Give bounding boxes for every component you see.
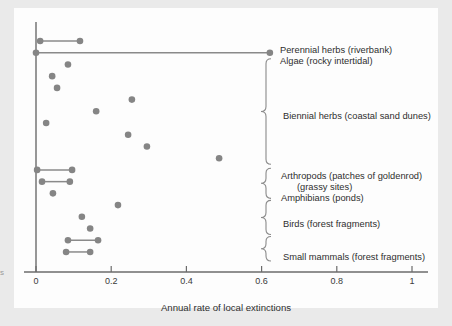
group-label-arthropods-goldenrod: Arthropods (patches of goldenrod) bbox=[281, 171, 422, 182]
data-point bbox=[54, 85, 61, 92]
group-label-birds: Birds (forest fragments) bbox=[283, 219, 380, 230]
x-axis-title: Annual rate of local extinctions bbox=[161, 302, 291, 313]
x-axis-tick-label-4: 0.8 bbox=[331, 276, 344, 286]
data-point bbox=[93, 108, 100, 115]
data-point bbox=[37, 38, 44, 45]
data-point bbox=[63, 249, 70, 256]
data-point bbox=[65, 61, 72, 68]
data-series bbox=[33, 38, 273, 256]
brace-birds bbox=[261, 200, 271, 234]
brace-biennial-herbs bbox=[261, 59, 271, 164]
x-axis-tick-label-1: 0.2 bbox=[105, 276, 118, 286]
data-point bbox=[39, 178, 46, 185]
x-axis-tick-label-5: 1 bbox=[409, 276, 414, 286]
x-axis-tick-label-2: 0.4 bbox=[180, 276, 193, 286]
data-point bbox=[95, 237, 102, 244]
data-point bbox=[77, 38, 84, 45]
group-label-biennial-herbs: Biennial herbs (coastal sand dunes) bbox=[283, 111, 431, 122]
figure-container: 00.20.40.60.81 Perennial herbs (riverban… bbox=[0, 0, 452, 326]
data-point bbox=[216, 155, 223, 162]
group-label-small-mammals: Small mammals (forest fragments) bbox=[283, 252, 425, 263]
group-label-algae: Algae (rocky intertidal) bbox=[280, 56, 373, 67]
data-point bbox=[50, 190, 57, 197]
data-point bbox=[69, 167, 76, 174]
group-label-amphibians: Amphibians (ponds) bbox=[281, 193, 364, 204]
group-label-arthropods-grassy: (grassy sites) bbox=[297, 182, 352, 193]
brace-arthropods-amphibians bbox=[261, 168, 271, 198]
group-braces bbox=[261, 59, 271, 261]
data-point bbox=[87, 225, 94, 232]
data-point bbox=[129, 96, 136, 103]
data-point bbox=[67, 178, 74, 185]
data-point bbox=[125, 131, 132, 138]
data-point bbox=[115, 202, 122, 209]
data-point bbox=[65, 237, 72, 244]
group-label-perennial-herbs: Perennial herbs (riverbank) bbox=[280, 45, 392, 56]
data-point bbox=[79, 214, 86, 221]
page-edge-mark: s bbox=[0, 268, 4, 277]
data-point bbox=[144, 143, 151, 150]
x-axis-ticks bbox=[36, 266, 412, 272]
x-axis-tick-label-3: 0.6 bbox=[255, 276, 268, 286]
data-point bbox=[33, 49, 40, 56]
data-point bbox=[43, 120, 50, 127]
data-point bbox=[34, 167, 41, 174]
data-point bbox=[49, 73, 56, 80]
brace-small-mammals bbox=[261, 237, 271, 261]
data-point bbox=[87, 249, 94, 256]
data-point bbox=[267, 49, 274, 56]
x-axis-tick-label-0: 0 bbox=[33, 276, 38, 286]
